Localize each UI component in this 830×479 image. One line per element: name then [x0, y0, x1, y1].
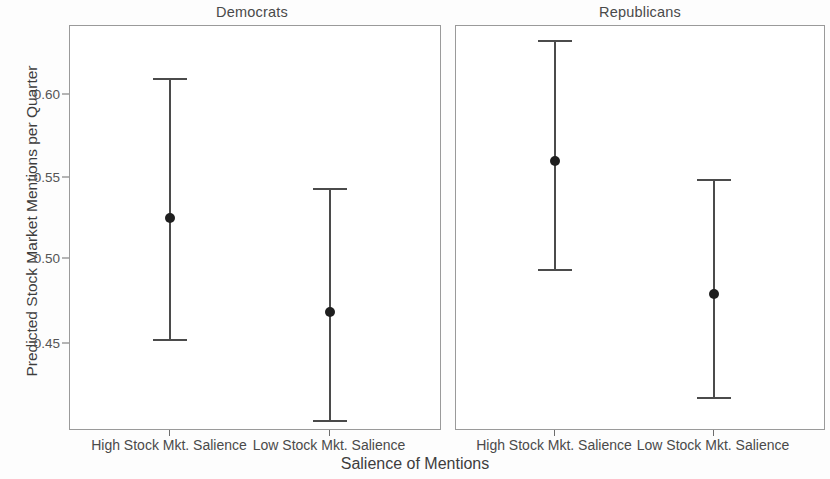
error-bar-upper-cap — [313, 188, 347, 190]
x-tick-mark — [713, 430, 714, 436]
x-tick-label-high-salience-democrats: High Stock Mkt. Salience — [91, 437, 247, 453]
y-tick-mark — [62, 258, 69, 259]
error-bar-upper-cap — [697, 179, 731, 181]
y-tick-label: 0.50 — [14, 251, 60, 266]
x-tick-mark — [169, 430, 170, 436]
error-bar-lower-cap — [538, 269, 572, 271]
plot-area-republicans — [456, 26, 824, 429]
y-tick-mark — [62, 343, 69, 344]
panel-republicans — [455, 25, 825, 430]
chart-figure: Democrats Republicans Predicted Stock Ma… — [0, 0, 830, 479]
data-point — [709, 289, 719, 299]
y-axis-tick-labels: 0.60 0.55 0.50 0.45 — [14, 0, 60, 479]
error-bar-stem — [554, 40, 556, 269]
error-bar-lower-cap — [313, 420, 347, 422]
x-tick-label-low-salience-republicans: Low Stock Mkt. Salience — [637, 437, 790, 453]
x-tick-mark — [554, 430, 555, 436]
error-bar-stem — [713, 179, 715, 397]
x-tick-mark — [329, 430, 330, 436]
y-tick-mark — [62, 177, 69, 178]
panel-democrats — [69, 25, 441, 430]
error-bar-upper-cap — [538, 40, 572, 42]
data-point — [550, 156, 560, 166]
panel-title-republicans: Republicans — [455, 4, 825, 20]
y-tick-label: 0.60 — [14, 87, 60, 102]
y-tick-label: 0.55 — [14, 170, 60, 185]
plot-area-democrats — [70, 26, 440, 429]
x-tick-label-high-salience-republicans: High Stock Mkt. Salience — [476, 437, 632, 453]
data-point — [325, 307, 335, 317]
error-bar-lower-cap — [153, 339, 187, 341]
error-bar-stem — [169, 78, 171, 339]
x-tick-label-low-salience-democrats: Low Stock Mkt. Salience — [253, 437, 406, 453]
error-bar-lower-cap — [697, 397, 731, 399]
panel-title-democrats: Democrats — [62, 4, 442, 20]
x-axis-title: Salience of Mentions — [0, 455, 830, 473]
y-tick-mark — [62, 94, 69, 95]
data-point — [165, 213, 175, 223]
y-tick-label: 0.45 — [14, 336, 60, 351]
error-bar-upper-cap — [153, 78, 187, 80]
error-bar-stem — [329, 188, 331, 421]
